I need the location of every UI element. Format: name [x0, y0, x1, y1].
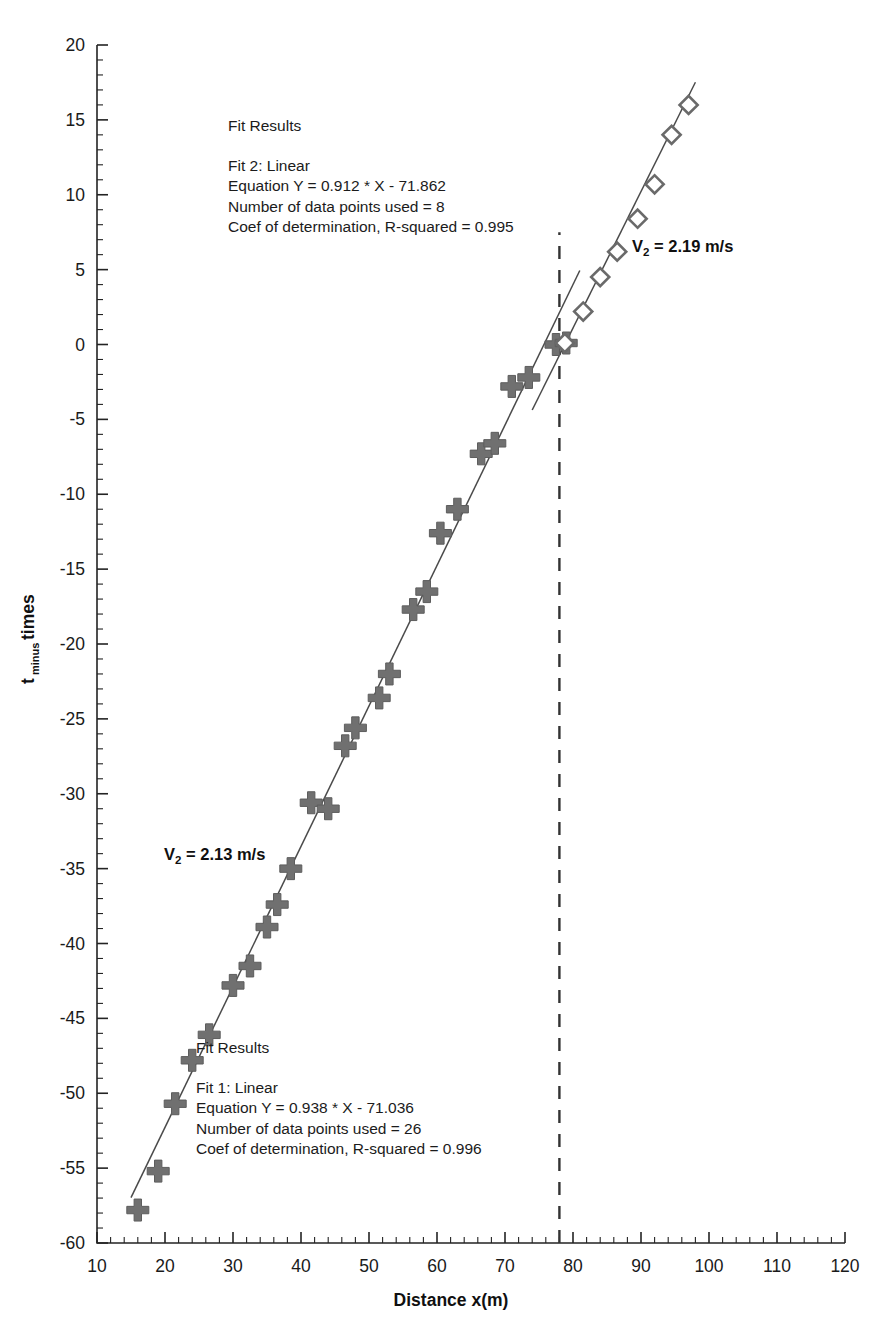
fit2-line-1: Fit 2: Linear	[228, 156, 514, 177]
data-point-plus	[256, 916, 278, 938]
y-tick-label: 20	[66, 35, 86, 55]
y-tick-label: 15	[66, 110, 85, 130]
chart-root: 10203040506070809010011012020151050-5-10…	[0, 0, 880, 1333]
data-point-plus	[368, 687, 390, 709]
y-tick-label: 10	[66, 185, 86, 205]
y-tick-label: -40	[60, 934, 86, 954]
data-point-plus	[416, 581, 438, 603]
x-tick-label: 40	[291, 1256, 311, 1276]
y-axis-title: tminustimes	[18, 594, 41, 684]
y-tick-label: -45	[60, 1008, 85, 1028]
data-point-diamond	[574, 303, 592, 321]
y-tick-label: -35	[60, 859, 85, 879]
y-tick-label: -15	[60, 559, 85, 579]
x-tick-label: 10	[87, 1256, 107, 1276]
data-point-plus	[239, 955, 261, 977]
y-tick-label: -5	[69, 409, 85, 429]
data-point-plus	[164, 1093, 186, 1115]
data-point-plus	[127, 1199, 149, 1221]
y-tick-label: -50	[60, 1083, 86, 1103]
data-point-plus	[147, 1160, 169, 1182]
data-point-diamond	[608, 243, 626, 261]
y-tick-label: -10	[60, 484, 86, 504]
y-axis-title-main: t	[18, 678, 38, 684]
x-tick-label: 50	[359, 1256, 379, 1276]
velocity-lower-value: = 2.13 m/s	[181, 845, 265, 863]
y-tick-label: -20	[60, 634, 86, 654]
y-tick-label: 0	[75, 335, 85, 355]
series-diamond	[556, 96, 698, 352]
fit1-line-1: Fit 1: Linear	[196, 1078, 482, 1099]
velocity-upper-symbol: V	[632, 237, 643, 255]
y-axis-title-subscript: minus	[29, 643, 41, 675]
data-point-plus	[280, 858, 302, 880]
y-tick-label: -25	[60, 709, 85, 729]
x-tick-label: 110	[763, 1256, 791, 1276]
velocity-label-lower: V2 = 2.13 m/s	[164, 845, 265, 866]
y-tick-label: -55	[60, 1158, 85, 1178]
fit1-results-annotation: Fit Results Fit 1: Linear Equation Y = 0…	[196, 1038, 482, 1160]
data-point-diamond	[591, 268, 609, 286]
x-tick-label: 60	[427, 1256, 447, 1276]
y-tick-label: -60	[60, 1233, 86, 1253]
axis-titles-group: Distance x(m)tminustimes	[18, 594, 508, 1310]
velocity-upper-value: = 2.19 m/s	[649, 237, 733, 255]
fit2-line-3: Number of data points used = 8	[228, 197, 514, 218]
data-point-plus	[402, 599, 424, 621]
x-tick-label: 80	[563, 1256, 583, 1276]
fit2-heading: Fit Results	[228, 116, 514, 137]
x-tick-label: 90	[631, 1256, 651, 1276]
fit2-line-2: Equation Y = 0.912 * X - 71.862	[228, 176, 514, 197]
fit1-heading: Fit Results	[196, 1038, 482, 1059]
data-point-plus	[446, 498, 468, 520]
fit1-line-2: Equation Y = 0.938 * X - 71.036	[196, 1098, 482, 1119]
fit2-results-annotation: Fit Results Fit 2: Linear Equation Y = 0…	[228, 116, 514, 238]
velocity-label-upper: V2 = 2.19 m/s	[632, 237, 733, 258]
y-tick-label: -30	[60, 784, 86, 804]
x-tick-label: 100	[694, 1256, 723, 1276]
y-tick-label: 5	[75, 260, 85, 280]
velocity-lower-symbol: V	[164, 845, 175, 863]
x-tick-label: 30	[223, 1256, 243, 1276]
fit2-line-4: Coef of determination, R-squared = 0.995	[228, 217, 514, 238]
data-point-diamond	[680, 96, 698, 114]
y-axis-title-tail: times	[18, 594, 38, 640]
x-tick-label: 20	[155, 1256, 175, 1276]
data-point-plus	[222, 974, 244, 996]
fit1-line-3: Number of data points used = 26	[196, 1119, 482, 1140]
x-axis-title: Distance x(m)	[394, 1290, 509, 1310]
x-tick-label: 70	[495, 1256, 515, 1276]
data-point-plus	[378, 663, 400, 685]
x-tick-label: 120	[830, 1256, 859, 1276]
fit1-line-4: Coef of determination, R-squared = 0.996	[196, 1139, 482, 1160]
